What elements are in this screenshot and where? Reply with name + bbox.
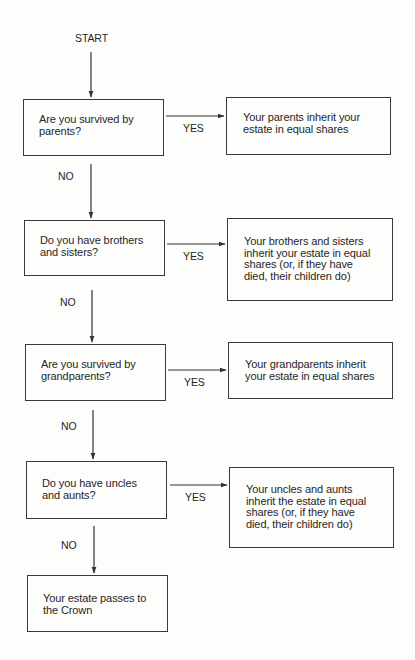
question-text: Are you survived by parents?: [39, 114, 153, 137]
outcome-text: Your brothers and sisters inherit your e…: [244, 236, 382, 282]
no-label: NO: [61, 421, 77, 432]
yes-label: YES: [183, 123, 204, 134]
question-text: Do you have brothers and sisters?: [40, 235, 154, 258]
outcome-box-siblings: Your brothers and sisters inherit your e…: [227, 218, 393, 301]
yes-label: YES: [184, 377, 205, 388]
outcome-box-parents: Your parents inherit your estate in equa…: [226, 97, 391, 155]
outcome-text: Your uncles and aunts inherit the estate…: [246, 484, 383, 530]
no-label: NO: [61, 540, 77, 551]
outcome-text: Your grandparents inherit your estate in…: [245, 359, 382, 382]
outcome-text: Your parents inherit your estate in equa…: [243, 112, 380, 135]
final-box-crown: Your estate passes to the Crown: [27, 575, 168, 632]
question-text: Do you have uncles and aunts?: [42, 478, 156, 501]
outcome-box-grandparents: Your grandparents inherit your estate in…: [228, 342, 393, 399]
flowchart: START Are you survived by parents? YES Y…: [0, 0, 415, 660]
final-text: Your estate passes to the Crown: [43, 593, 157, 616]
question-box-siblings: Do you have brothers and sisters?: [24, 220, 165, 276]
question-text: Are you survived by grandparents?: [41, 359, 155, 382]
outcome-box-uncles-aunts: Your uncles and aunts inherit the estate…: [229, 467, 394, 548]
yes-label: YES: [183, 251, 204, 262]
yes-label: YES: [185, 492, 206, 503]
start-label: START: [75, 33, 108, 44]
question-box-uncles-aunts: Do you have uncles and aunts?: [26, 461, 167, 519]
question-box-grandparents: Are you survived by grandparents?: [25, 344, 166, 401]
no-label: NO: [58, 171, 74, 182]
question-box-parents: Are you survived by parents?: [23, 99, 164, 156]
no-label: NO: [60, 297, 76, 308]
